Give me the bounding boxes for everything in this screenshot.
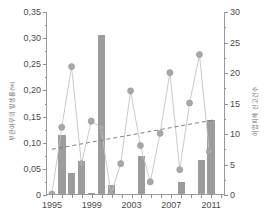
y-tick-label-right-3: 15 — [230, 99, 240, 109]
bar-2010 — [198, 160, 205, 195]
y-tick-right-0 — [224, 195, 228, 196]
x-tick-2007 — [171, 194, 172, 198]
x-tick-2011 — [211, 194, 212, 198]
x-tick-2005 — [151, 194, 152, 198]
y-tick-label-right-2: 10 — [230, 129, 240, 139]
chart-container: 부관여우의 발생률(%) 어업피해 신고건수 00,050,100,150,20… — [0, 0, 265, 224]
bar-2004 — [138, 156, 145, 194]
plot-area: 00,050,100,150,200,250,300,3505101520253… — [46, 12, 225, 195]
y-tick-left-minor-6 — [45, 25, 47, 26]
y-tick-label-left-7: 0,35 — [23, 7, 41, 17]
y-tick-left-minor-4 — [45, 77, 47, 78]
y-tick-label-right-6: 30 — [230, 7, 240, 17]
y-tick-right-minor-4 — [224, 58, 226, 59]
line-series-path — [52, 54, 209, 194]
x-tick-label-2011: 2011 — [201, 200, 220, 210]
bar-1997 — [68, 173, 75, 194]
y-tick-left-4 — [43, 90, 47, 91]
trend-line — [52, 120, 215, 150]
x-tick-1996 — [62, 194, 63, 198]
y-tick-right-minor-2 — [224, 119, 226, 120]
bar-2011 — [207, 120, 214, 194]
marker-1997 — [69, 64, 75, 70]
x-tick-1999 — [92, 194, 93, 198]
x-tick-label-2003: 2003 — [122, 200, 142, 210]
y-tick-label-left-2: 0,10 — [23, 138, 41, 148]
y-tick-right-4 — [224, 73, 228, 74]
marker-2007 — [167, 70, 173, 76]
y-tick-label-right-1: 5 — [230, 160, 235, 170]
marker-2005 — [147, 179, 153, 185]
x-tick-label-1995: 1995 — [42, 200, 62, 210]
x-tick-2012 — [221, 194, 222, 198]
marker-2004 — [137, 142, 143, 148]
y-tick-left-minor-0 — [45, 182, 47, 183]
y-tick-label-right-5: 25 — [230, 38, 240, 48]
marker-2006 — [157, 130, 163, 136]
y-axis-left-title: 부관여우의 발생률(%) — [9, 71, 15, 151]
x-tick-2004 — [141, 194, 142, 198]
marker-2008 — [177, 167, 183, 173]
x-tick-2002 — [122, 194, 123, 198]
y-tick-left-2 — [43, 143, 47, 144]
x-tick-2003 — [132, 194, 133, 198]
y-tick-left-6 — [43, 38, 47, 39]
x-tick-2009 — [191, 194, 192, 198]
y-tick-left-0 — [43, 195, 47, 196]
marker-2009 — [187, 100, 193, 106]
y-tick-right-1 — [224, 165, 228, 166]
y-tick-left-7 — [43, 12, 47, 13]
y-tick-right-6 — [224, 12, 228, 13]
x-tick-2001 — [112, 194, 113, 198]
y-tick-label-right-4: 20 — [230, 68, 240, 78]
x-tick-2008 — [181, 194, 182, 198]
marker-1999 — [88, 118, 94, 124]
y-axis-right-title: 어업피해 신고건수 — [252, 71, 258, 151]
y-tick-left-minor-5 — [45, 51, 47, 52]
y-tick-label-left-5: 0,25 — [23, 59, 41, 69]
y-tick-label-left-1: 0,05 — [23, 164, 41, 174]
x-tick-label-2007: 2007 — [161, 200, 181, 210]
y-tick-right-minor-0 — [224, 180, 226, 181]
y-tick-left-minor-3 — [45, 104, 47, 105]
y-tick-label-left-3: 0,15 — [23, 112, 41, 122]
y-tick-right-minor-3 — [224, 88, 226, 89]
y-tick-left-5 — [43, 64, 47, 65]
y-tick-left-minor-2 — [45, 130, 47, 131]
bar-2008 — [178, 182, 185, 194]
x-tick-1995 — [52, 194, 53, 198]
y-tick-left-minor-1 — [45, 156, 47, 157]
x-tick-1997 — [72, 194, 73, 198]
y-tick-right-minor-1 — [224, 149, 226, 150]
y-tick-label-left-4: 0,20 — [23, 85, 41, 95]
y-tick-label-left-6: 0,30 — [23, 33, 41, 43]
bar-2000 — [98, 35, 105, 194]
bar-1998 — [78, 161, 85, 194]
marker-1996 — [59, 124, 65, 130]
x-tick-1998 — [82, 194, 83, 198]
x-tick-2006 — [161, 194, 162, 198]
y-tick-label-right-0: 0 — [230, 190, 235, 200]
x-tick-2010 — [201, 194, 202, 198]
y-tick-label-left-0: 0 — [36, 190, 41, 200]
bar-2001 — [108, 185, 115, 194]
y-tick-left-3 — [43, 117, 47, 118]
y-tick-right-3 — [224, 104, 228, 105]
marker-2003 — [128, 88, 134, 94]
bar-1996 — [58, 135, 65, 194]
y-tick-right-minor-5 — [224, 27, 226, 28]
marker-2002 — [118, 161, 124, 167]
y-tick-right-5 — [224, 43, 228, 44]
marker-2010 — [196, 51, 202, 57]
y-tick-right-2 — [224, 134, 228, 135]
x-tick-2000 — [102, 194, 103, 198]
y-tick-left-1 — [43, 169, 47, 170]
x-tick-label-1999: 1999 — [82, 200, 102, 210]
